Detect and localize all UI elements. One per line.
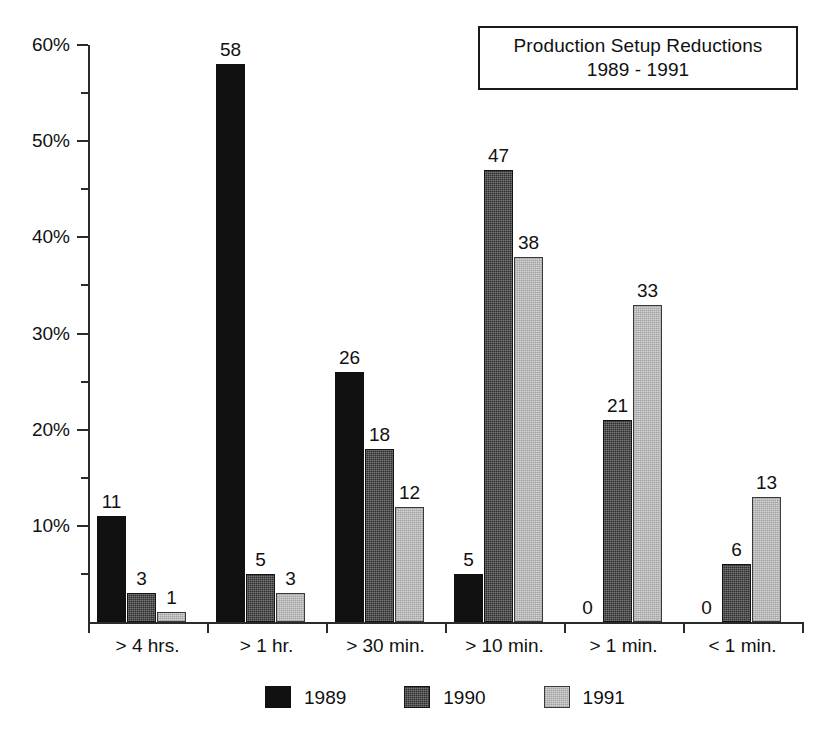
x-axis-category-label: > 30 min.: [326, 636, 445, 655]
bar-value-label: 1: [145, 588, 198, 607]
x-axis-category-label: > 10 min.: [445, 636, 564, 655]
bar-1989-2: [335, 372, 364, 622]
bar-1991-0: [157, 612, 186, 622]
legend-swatch-icon: [265, 686, 291, 708]
legend-item-label: 1989: [304, 688, 346, 707]
legend-item-1990[interactable]: 1990: [404, 686, 485, 708]
bar-1991-4: [633, 305, 662, 622]
bar-value-label: 5: [234, 550, 287, 569]
bar-value-label: 3: [115, 569, 168, 588]
x-axis-category-label: > 4 hrs.: [88, 636, 207, 655]
bar-value-label: 13: [740, 473, 793, 492]
bar-value-label: 26: [323, 348, 376, 367]
legend-item-label: 1991: [583, 688, 625, 707]
x-axis-category-label: > 1 hr.: [207, 636, 326, 655]
bar-value-label: 33: [621, 281, 674, 300]
bar-1989-1: [216, 64, 245, 622]
chart-legend: 198919901991: [265, 686, 625, 708]
legend-item-1989[interactable]: 1989: [265, 686, 346, 708]
legend-swatch-icon: [544, 686, 570, 708]
bar-1991-3: [514, 257, 543, 622]
bar-1990-5: [722, 564, 751, 622]
bar-value-label: 3: [264, 569, 317, 588]
bar-1989-3: [454, 574, 483, 622]
bar-1990-2: [365, 449, 394, 622]
x-axis-category-label: > 1 min.: [564, 636, 683, 655]
bar-value-label: 11: [85, 492, 138, 511]
bar-1990-4: [603, 420, 632, 622]
bar-value-label: 38: [502, 233, 555, 252]
bar-chart: Production Setup Reductions 1989 - 1991 …: [0, 0, 825, 749]
bar-1991-5: [752, 497, 781, 622]
legend-item-1991[interactable]: 1991: [544, 686, 625, 708]
bar-value-label: 12: [383, 483, 436, 502]
legend-swatch-icon: [404, 686, 430, 708]
bar-value-label: 18: [353, 425, 406, 444]
bar-value-label: 58: [204, 40, 257, 59]
legend-item-label: 1990: [443, 688, 485, 707]
bar-value-label: 47: [472, 146, 525, 165]
x-axis-category-label: < 1 min.: [683, 636, 802, 655]
bar-1991-2: [395, 507, 424, 622]
bar-1991-1: [276, 593, 305, 622]
